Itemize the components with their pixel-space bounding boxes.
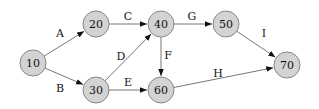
node-20: 20	[83, 11, 109, 37]
edge-label: I	[262, 27, 266, 40]
node-label: 10	[26, 57, 40, 70]
edge-d-arrow	[105, 34, 151, 81]
node-label: 50	[219, 18, 233, 31]
edge-label: G	[188, 10, 197, 23]
node-label: 70	[280, 59, 294, 72]
edge-label: E	[124, 76, 132, 89]
node-40: 40	[148, 11, 174, 37]
node-70: 70	[274, 52, 300, 78]
edge-h-arrow	[174, 68, 274, 88]
edge-a-arrow	[44, 31, 84, 56]
edge-label: F	[164, 49, 172, 62]
node-60: 60	[148, 77, 174, 103]
node-50: 50	[213, 11, 239, 37]
node-label: 30	[89, 84, 103, 97]
node-30: 30	[83, 77, 109, 103]
edge-label: D	[117, 50, 126, 63]
edge-label: A	[55, 27, 65, 40]
node-label: 20	[89, 18, 103, 31]
node-label: 40	[154, 18, 168, 31]
edge-label: H	[213, 67, 223, 80]
edge-label: B	[56, 82, 64, 95]
node-label: 60	[154, 84, 168, 97]
edge-i-arrow	[237, 31, 276, 57]
graph-diagram: ABCDEFGHI 10203040506070	[0, 0, 319, 109]
node-10: 10	[20, 50, 46, 76]
edge-label: C	[124, 10, 132, 23]
